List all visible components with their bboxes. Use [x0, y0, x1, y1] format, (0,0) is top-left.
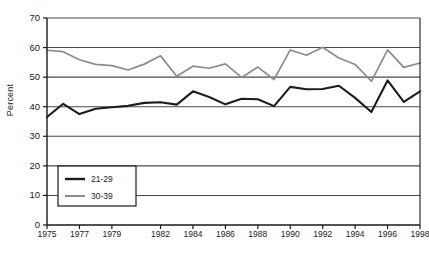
chart-legend: 21-2930-39: [58, 166, 136, 206]
legend-entry-label: 30-39: [91, 191, 113, 201]
x-axis-tick-label: 1975: [38, 230, 57, 239]
y-axis-tick-label: 20: [14, 161, 40, 171]
chart-plot-area: Percent 010203040506070 1975197719791982…: [0, 0, 429, 236]
line-chart-svg: 21-2930-39: [0, 0, 429, 236]
x-axis-tick-label: 1982: [151, 230, 170, 239]
x-axis-tick-label: 1984: [183, 230, 202, 239]
x-axis-tick-label: 1986: [216, 230, 235, 239]
x-axis-tick-label: 1992: [313, 230, 332, 239]
x-axis-tick-labels: 1975197719791982198419861988199019921994…: [0, 228, 429, 242]
y-axis-tick-label: 30: [14, 131, 40, 141]
y-axis-tick-label: 40: [14, 102, 40, 112]
y-axis-tick-labels: 010203040506070: [12, 0, 40, 236]
x-axis-tick-label: 1994: [346, 230, 365, 239]
figure-caption: [0, 243, 429, 256]
x-axis-tick-label: 1988: [248, 230, 267, 239]
x-axis-tick-label: 1990: [281, 230, 300, 239]
chart-figure: Percent 010203040506070 1975197719791982…: [0, 0, 429, 256]
x-axis-tick-label: 1977: [70, 230, 89, 239]
x-axis-tick-label: 1998: [411, 230, 429, 239]
y-axis-tick-label: 60: [14, 43, 40, 53]
y-axis-tick-label: 10: [14, 190, 40, 200]
legend-entry-label: 21-29: [91, 174, 113, 184]
y-axis-tick-label: 70: [14, 13, 40, 23]
y-axis-tick-label: 50: [14, 72, 40, 82]
x-axis-tick-label: 1979: [102, 230, 121, 239]
x-axis-tick-label: 1996: [378, 230, 397, 239]
